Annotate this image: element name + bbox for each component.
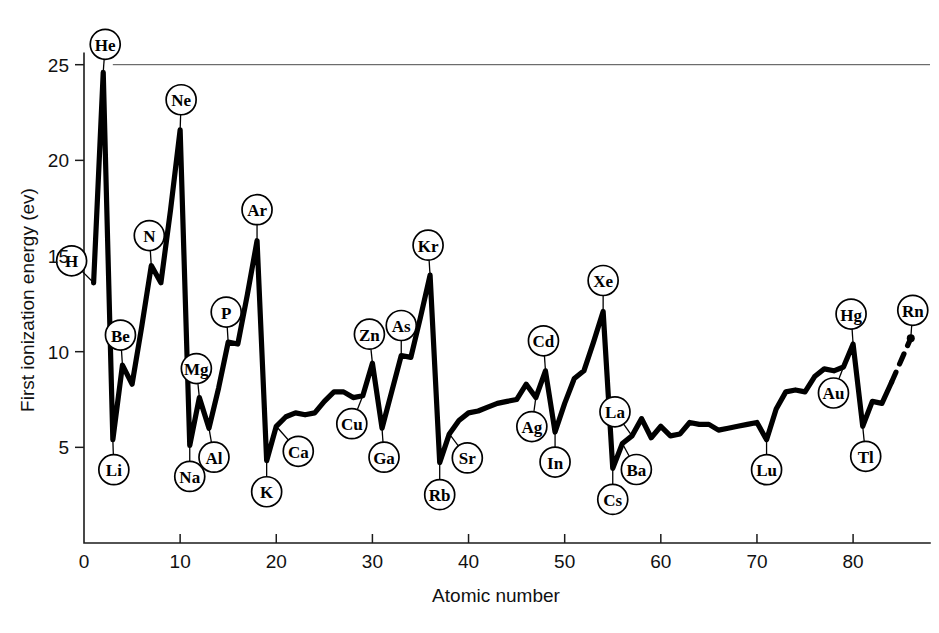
element-marker[interactable]: Kr	[413, 230, 443, 260]
element-symbol-label: Cd	[533, 332, 555, 351]
element-symbol-label: Cu	[341, 415, 363, 434]
label-leader-line	[276, 426, 288, 440]
y-tick-label: 25	[48, 55, 69, 76]
element-symbol-label: Li	[106, 461, 122, 480]
x-tick-label: 60	[650, 551, 671, 572]
y-tick-label: 15	[48, 246, 69, 267]
element-marker[interactable]: As	[386, 311, 416, 341]
element-marker[interactable]: Ag	[517, 412, 547, 442]
element-symbol-label: N	[143, 227, 156, 246]
element-marker[interactable]: Rn	[898, 295, 928, 325]
x-axis-title: Atomic number	[432, 585, 560, 606]
element-marker[interactable]: Li	[99, 455, 129, 485]
element-marker[interactable]: Cs	[598, 484, 628, 514]
ionization-energy-chart: HHeLiBeNNeNaMgAlPArKCaCuZnGaAsKrRbSrAgCd…	[0, 0, 939, 633]
element-symbol-label: Rb	[429, 486, 451, 505]
label-leader-line	[113, 440, 114, 455]
element-symbol-label: K	[260, 483, 274, 502]
element-symbol-label: La	[605, 403, 625, 422]
x-tick-label: 70	[746, 551, 767, 572]
element-symbol-label: Lu	[756, 461, 777, 480]
element-marker[interactable]: Ba	[621, 455, 651, 485]
element-symbol-label: Ne	[171, 91, 191, 110]
element-symbol-label: Rn	[902, 302, 924, 321]
y-axis-title: First ionization energy (ev)	[17, 188, 38, 412]
element-marker[interactable]: Ne	[166, 85, 196, 115]
label-leader-line	[449, 434, 458, 446]
element-marker[interactable]: Mg	[181, 354, 211, 384]
x-tick-label: 0	[79, 551, 90, 572]
element-marker[interactable]: Ca	[283, 436, 313, 466]
element-marker[interactable]: Cu	[337, 409, 367, 439]
element-symbol-label: Sr	[459, 449, 476, 468]
element-marker[interactable]: Au	[818, 378, 848, 408]
label-leader-line	[622, 444, 629, 457]
label-leader-line	[180, 115, 181, 130]
x-tick-label: 80	[843, 551, 864, 572]
element-marker[interactable]: K	[252, 477, 282, 507]
x-tick-label: 30	[362, 551, 383, 572]
element-symbol-label: Al	[205, 449, 222, 468]
element-symbol-label: Ca	[288, 443, 309, 462]
data-series-group	[94, 72, 915, 468]
element-marker[interactable]: P	[211, 297, 241, 327]
element-marker[interactable]: Zn	[354, 319, 384, 349]
x-tick-label: 40	[458, 551, 479, 572]
label-leader-line	[624, 424, 632, 436]
element-marker[interactable]: Na	[175, 461, 205, 491]
element-marker[interactable]: Lu	[752, 455, 782, 485]
element-marker[interactable]: Be	[105, 320, 135, 350]
element-marker[interactable]: Ar	[242, 195, 272, 225]
element-symbol-label: Zn	[359, 326, 380, 345]
x-tick-label: 50	[554, 551, 575, 572]
label-leader-line	[863, 426, 865, 441]
element-symbol-label: Xe	[593, 272, 613, 291]
series-path-main	[94, 72, 892, 468]
tick-label-group: 51015202501020304050607080	[48, 55, 864, 572]
element-symbol-label: Ba	[626, 461, 646, 480]
element-symbol-label: He	[95, 36, 116, 55]
element-symbol-label: As	[392, 317, 411, 336]
element-symbol-label: Kr	[418, 237, 439, 256]
element-symbol-label: Au	[823, 384, 845, 403]
element-symbol-label: Be	[111, 327, 130, 346]
y-tick-label: 20	[48, 150, 69, 171]
element-marker[interactable]: Tl	[851, 441, 881, 471]
y-tick-label: 10	[48, 342, 69, 363]
element-symbol-label: Ag	[521, 418, 542, 437]
series-path-extrapolated	[892, 338, 911, 382]
element-symbol-label: Tl	[858, 448, 874, 467]
element-symbol-label: P	[221, 304, 231, 323]
element-marker[interactable]: Al	[199, 442, 229, 472]
x-tick-label: 20	[266, 551, 287, 572]
element-marker[interactable]: He	[90, 29, 120, 59]
element-marker[interactable]: Sr	[452, 443, 482, 473]
element-marker[interactable]: Xe	[588, 266, 618, 296]
element-marker[interactable]: La	[600, 397, 630, 427]
element-symbol-label: Cs	[603, 491, 622, 510]
element-symbol-label: Hg	[840, 306, 862, 325]
x-tick-label: 10	[170, 551, 191, 572]
element-symbol-label: Na	[179, 468, 200, 487]
y-tick-label: 5	[58, 437, 69, 458]
element-marker[interactable]: Hg	[836, 299, 866, 329]
element-symbol-label: Ga	[373, 449, 395, 468]
chart-canvas: HHeLiBeNNeNaMgAlPArKCaCuZnGaAsKrRbSrAgCd…	[0, 0, 939, 633]
element-marker[interactable]: Ga	[369, 442, 399, 472]
element-symbol-label: Ar	[247, 201, 267, 220]
element-marker[interactable]: N	[134, 221, 164, 251]
element-marker[interactable]: Cd	[528, 326, 558, 356]
element-symbol-label: Mg	[184, 360, 209, 379]
element-symbol-label: In	[547, 454, 564, 473]
element-marker[interactable]: Rb	[425, 480, 455, 510]
element-marker[interactable]: In	[540, 447, 570, 477]
